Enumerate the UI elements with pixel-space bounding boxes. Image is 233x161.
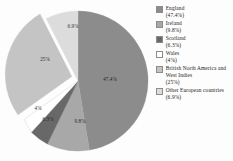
slice-label-ireland: 9.8% xyxy=(74,118,86,124)
legend-pct-wales: (4%) xyxy=(166,57,180,64)
chart-legend: England (47.4%) Ireland (9.8%) Scotland … xyxy=(156,5,233,155)
legend-swatch-icon-wales xyxy=(156,51,163,58)
legend-name-wales: Wales xyxy=(166,50,180,57)
legend-pct-other-european: (6.9%) xyxy=(166,94,224,101)
legend-swatch-icon-scotland xyxy=(156,36,163,43)
legend-label-england: England (47.4%) xyxy=(166,5,185,19)
legend-swatch-icon-england xyxy=(156,6,163,13)
legend-label-wales: Wales (4%) xyxy=(166,50,180,64)
slice-label-england: 47.4% xyxy=(103,76,117,82)
legend-name-other-european: Other European countries xyxy=(166,87,224,94)
legend-pct-ireland: (9.8%) xyxy=(166,27,182,34)
pie-svg: 47.4% 9.8% 6.3% 4% 25% 6.9% xyxy=(0,0,152,161)
slice-label-scotland: 6.3% xyxy=(42,116,54,122)
legend-name-england: England xyxy=(166,5,185,12)
legend-pct-scotland: (6.3%) xyxy=(166,42,186,49)
legend-name-scotland: Scotland xyxy=(166,35,186,42)
legend-item-other-european[interactable]: Other European countries (6.9%) xyxy=(156,87,233,101)
slice-label-bna: 25% xyxy=(40,56,50,62)
legend-swatch-icon-ireland xyxy=(156,21,163,28)
pie-chart-figure: 47.4% 9.8% 6.3% 4% 25% 6.9% England (47.… xyxy=(0,0,233,161)
legend-swatch-icon-other-european xyxy=(156,88,163,95)
legend-name-ireland: Ireland xyxy=(166,20,182,27)
legend-name-british-north-america: British North America and West Indies xyxy=(166,65,233,79)
legend-label-ireland: Ireland (9.8%) xyxy=(166,20,182,34)
legend-label-british-north-america: British North America and West Indies (2… xyxy=(166,65,233,86)
legend-pct-british-north-america: (25%) xyxy=(166,79,233,86)
legend-item-british-north-america[interactable]: British North America and West Indies (2… xyxy=(156,65,233,86)
pie-plot-area: 47.4% 9.8% 6.3% 4% 25% 6.9% xyxy=(0,0,152,161)
slice-label-wales: 4% xyxy=(35,105,43,111)
legend-item-england[interactable]: England (47.4%) xyxy=(156,5,233,19)
legend-swatch-icon-british-north-america xyxy=(156,66,163,73)
legend-item-ireland[interactable]: Ireland (9.8%) xyxy=(156,20,233,34)
legend-pct-england: (47.4%) xyxy=(166,12,185,19)
legend-label-other-european: Other European countries (6.9%) xyxy=(166,87,224,101)
legend-label-scotland: Scotland (6.3%) xyxy=(166,35,186,49)
legend-item-wales[interactable]: Wales (4%) xyxy=(156,50,233,64)
slice-label-other-european: 6.9% xyxy=(67,23,79,29)
legend-item-scotland[interactable]: Scotland (6.3%) xyxy=(156,35,233,49)
